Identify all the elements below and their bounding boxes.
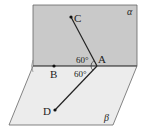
label-beta: β <box>103 112 109 123</box>
diagram-canvas: C A B D 60° 60° α β <box>0 0 146 132</box>
label-C: C <box>74 12 81 24</box>
dihedral-angle-diagram: C A B D 60° 60° α β <box>0 0 146 132</box>
angle-label-upper: 60° <box>76 55 89 65</box>
angle-label-lower: 60° <box>74 69 87 79</box>
point-C <box>69 15 72 18</box>
label-alpha: α <box>127 6 133 17</box>
plane-beta <box>9 66 137 125</box>
label-B: B <box>50 68 57 80</box>
label-A: A <box>98 53 106 65</box>
label-D: D <box>43 105 51 117</box>
point-D <box>53 108 56 111</box>
